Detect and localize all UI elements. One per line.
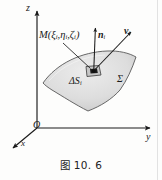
area-element-subscript: i	[80, 79, 82, 86]
x-axis	[13, 128, 37, 148]
velocity-vector-subscript: i	[128, 29, 130, 36]
axis-label-origin: O	[33, 120, 40, 130]
point-label-m-letter: M	[39, 29, 48, 40]
area-element-letter: ΔS	[69, 75, 80, 86]
normal-vector-subscript: i	[104, 33, 106, 40]
area-element-label: ΔSi	[69, 76, 82, 87]
axis-label-z: z	[26, 3, 30, 13]
velocity-vector-label: vi	[124, 26, 130, 37]
axis-label-x: x	[21, 139, 25, 148]
point-label-paren-close: )	[76, 29, 80, 40]
point-label-m: M(ξi,ηi,ζi)	[39, 30, 79, 41]
normal-vector-label: ni	[98, 30, 105, 41]
page-edge-rule	[157, 0, 158, 180]
surface-label-sigma: Σ	[117, 74, 123, 84]
axis-label-y: y	[146, 132, 150, 142]
figure-drawing	[0, 0, 162, 180]
figure-container: z y x O M(ξi,ηi,ζi) ni vi ΔSi Σ 图 10. 6	[0, 0, 162, 180]
figure-caption: 图 10. 6	[0, 157, 162, 172]
